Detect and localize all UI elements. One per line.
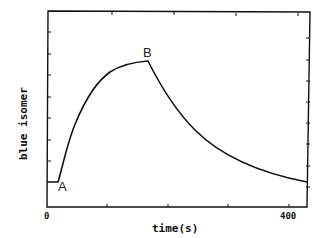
- point-b-label: B: [143, 45, 152, 60]
- x-tick-label-0: 0: [44, 211, 49, 221]
- point-a-label: A: [58, 179, 67, 194]
- x-axis-label: time(s): [152, 222, 198, 235]
- data-line: [47, 61, 307, 182]
- y-axis-label: blue isomer: [17, 87, 30, 160]
- x-tick-label-400: 400: [280, 211, 296, 221]
- chart: A B 0 400 time(s) blue isomer: [0, 0, 326, 238]
- top-axis-ticks: [112, 12, 298, 16]
- plot-frame: [47, 11, 310, 207]
